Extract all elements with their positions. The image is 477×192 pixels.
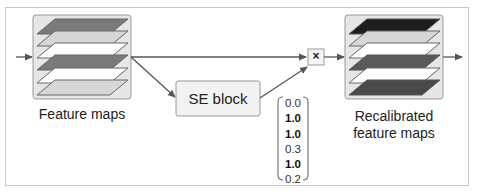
output-feature-map-stack <box>349 19 440 95</box>
scale-value: 0.0 <box>278 96 308 111</box>
scale-value: 1.0 <box>278 127 308 142</box>
input-feature-maps-label: Feature maps <box>33 106 131 123</box>
scale-value: 1.0 <box>278 157 308 172</box>
se-block-label: SE block <box>176 90 260 107</box>
scale-value: 0.3 <box>278 142 308 157</box>
se-output-arrow <box>260 67 307 98</box>
multiply-symbol: × <box>308 48 324 65</box>
scale-value: 0.2 <box>278 172 308 187</box>
recalibrated-label-line1: Recalibrated <box>335 108 453 125</box>
input-feature-map-stack <box>37 19 128 95</box>
recalibrated-label-line2: feature maps <box>335 125 453 142</box>
to-se-block-arrow <box>131 57 175 97</box>
scale-vector: 0.0 1.0 1.0 0.3 1.0 0.2 <box>278 96 308 188</box>
scale-value: 1.0 <box>278 111 308 126</box>
